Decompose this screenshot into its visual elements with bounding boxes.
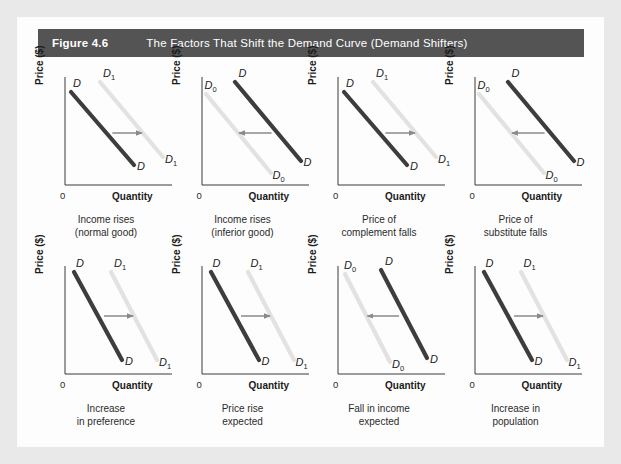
shifted-curve-label-bottom: D0 (392, 358, 404, 373)
panel-price-of-substitute-falls: Price ($) Quantity 0 DDD0D0 Price of sub… (448, 63, 584, 252)
demand-plot: Price ($) Quantity 0 DDD1D1 (311, 63, 447, 211)
x-axis-label: Quantity (385, 380, 426, 391)
y-axis-label: Price ($) (171, 46, 182, 85)
demand-plot: Price ($) Quantity 0 DDD1D1 (38, 63, 174, 211)
x-axis-label: Quantity (249, 380, 290, 391)
panel-caption: Fall in income expected (311, 402, 447, 428)
original-demand-curve (71, 92, 134, 165)
panel-caption: Income rises (normal good) (38, 213, 174, 239)
shifted-curve-label-top: D1 (524, 257, 536, 272)
caption-line-2: (inferior good) (175, 226, 311, 239)
demand-plot: Price ($) Quantity 0 DDD1D1 (448, 252, 584, 400)
caption-line-2: complement falls (311, 226, 447, 239)
demand-plot: Price ($) Quantity 0 DDD0D0 (175, 63, 311, 211)
plot-canvas (175, 63, 311, 211)
original-curve-label-bottom: D (410, 160, 418, 172)
origin-label: 0 (197, 190, 202, 201)
shifted-curve-label-top: D1 (103, 67, 115, 82)
caption-line-2: substitute falls (448, 226, 584, 239)
panel-income-rises-normal-good: Price ($) Quantity 0 DDD1D1 Income rises… (38, 63, 174, 252)
panel-price-rise-expected: Price ($) Quantity 0 DDD1D1 Price rise e… (175, 252, 311, 441)
x-axis-label: Quantity (522, 191, 563, 202)
caption-line-2: (normal good) (38, 226, 174, 239)
panel-caption: Income rises (inferior good) (175, 213, 311, 239)
shifted-demand-curve (373, 82, 436, 157)
original-curve-label-bottom: D (577, 156, 585, 168)
x-axis-label: Quantity (522, 380, 563, 391)
original-curve-label-top: D (512, 67, 520, 79)
origin-label: 0 (197, 379, 202, 390)
caption-line-2: expected (175, 415, 311, 428)
plot-canvas (311, 63, 447, 211)
caption-line-1: Price of (311, 213, 447, 226)
original-demand-curve (235, 82, 301, 161)
demand-plot: Price ($) Quantity 0 DDD0D0 (448, 63, 584, 211)
y-axis-label: Price ($) (34, 235, 45, 274)
original-curve-label-top: D (213, 257, 221, 269)
figure-page: Figure 4.6 The Factors That Shift the De… (17, 17, 604, 447)
original-demand-curve (508, 82, 574, 161)
plot-canvas (38, 252, 174, 400)
shifted-demand-curve (100, 82, 163, 157)
y-axis-label: Price ($) (307, 235, 318, 274)
original-curve-label-bottom: D (125, 355, 133, 367)
original-curve-label-bottom: D (535, 355, 543, 367)
demand-plot: Price ($) Quantity 0 DDD1D1 (38, 252, 174, 400)
shifted-curve-label-top: D1 (114, 257, 126, 272)
original-demand-curve (344, 92, 407, 165)
demand-plot: Price ($) Quantity 0 DDD1D1 (175, 252, 311, 400)
y-axis-label: Price ($) (307, 46, 318, 85)
origin-label: 0 (333, 190, 338, 201)
original-curve-label-top: D (346, 77, 354, 89)
panel-grid: Price ($) Quantity 0 DDD1D1 Income rises… (38, 63, 584, 441)
shifted-curve-label-top: D0 (478, 79, 490, 94)
panel-increase-in-preference: Price ($) Quantity 0 DDD1D1 Increase in … (38, 252, 174, 441)
original-curve-label-bottom: D (137, 160, 145, 172)
caption-line-1: Income rises (175, 213, 311, 226)
shifted-curve-label-bottom: D0 (273, 169, 285, 184)
y-axis-label: Price ($) (444, 46, 455, 85)
panel-increase-in-population: Price ($) Quantity 0 DDD1D1 Increase in … (448, 252, 584, 441)
shifted-demand-curve (345, 274, 390, 362)
y-axis-label: Price ($) (34, 46, 45, 85)
plot-canvas (311, 252, 447, 400)
figure-number: Figure 4.6 (52, 37, 108, 49)
x-axis-label: Quantity (112, 380, 153, 391)
panel-row-bottom: Price ($) Quantity 0 DDD1D1 Increase in … (38, 252, 584, 441)
shifted-curve-label-top: D0 (205, 79, 217, 94)
plot-canvas (448, 252, 584, 400)
panel-caption: Price of complement falls (311, 213, 447, 239)
plot-canvas (175, 252, 311, 400)
shifted-curve-label-top: D1 (251, 257, 263, 272)
original-curve-label-top: D (486, 257, 494, 269)
panel-income-rises-inferior-good: Price ($) Quantity 0 DDD0D0 Income rises… (175, 63, 311, 252)
panel-fall-in-income-expected: Price ($) Quantity 0 DDD0D0 Fall in inco… (311, 252, 447, 441)
origin-label: 0 (470, 379, 475, 390)
caption-line-1: Fall in income (311, 402, 447, 415)
panel-caption: Increase in population (448, 402, 584, 428)
plot-canvas (448, 63, 584, 211)
shifted-curve-label-bottom: D1 (296, 356, 308, 371)
original-curve-label-bottom: D (262, 355, 270, 367)
demand-plot: Price ($) Quantity 0 DDD0D0 (311, 252, 447, 400)
x-axis-label: Quantity (385, 191, 426, 202)
origin-label: 0 (333, 379, 338, 390)
y-axis-label: Price ($) (171, 235, 182, 274)
original-curve-label-top: D (73, 77, 81, 89)
original-curve-label-top: D (385, 255, 393, 267)
shifted-curve-label-bottom: D0 (546, 169, 558, 184)
caption-line-1: Price of (448, 213, 584, 226)
x-axis-label: Quantity (112, 191, 153, 202)
origin-label: 0 (60, 379, 65, 390)
shifted-curve-label-bottom: D1 (569, 356, 581, 371)
original-demand-curve (381, 270, 427, 358)
caption-line-2: population (448, 415, 584, 428)
original-curve-label-top: D (76, 257, 84, 269)
caption-line-2: in preference (38, 415, 174, 428)
original-curve-label-bottom: D (430, 353, 438, 365)
caption-line-1: Increase (38, 402, 174, 415)
shifted-curve-label-bottom: D1 (159, 356, 171, 371)
panel-caption: Increase in preference (38, 402, 174, 428)
origin-label: 0 (60, 190, 65, 201)
panel-row-top: Price ($) Quantity 0 DDD1D1 Income rises… (38, 63, 584, 252)
